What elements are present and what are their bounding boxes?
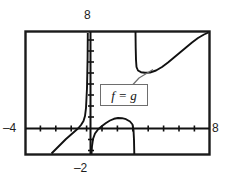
x-axis-min-label: –4 [3,122,16,134]
graph-figure: f = g 8 –4 8 –2 [0,0,229,184]
x-axis-max-label: 8 [212,122,218,134]
y-axis-min-label: –2 [74,162,87,174]
callout-label: f = g [111,89,136,102]
callout-box: f = g [100,84,148,106]
y-axis-max-label: 8 [84,9,90,21]
